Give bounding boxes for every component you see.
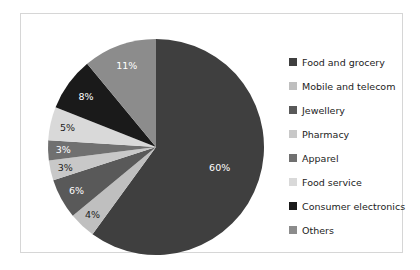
legend-item-label: Pharmacy <box>302 129 349 140</box>
legend-item-food-service[interactable]: Food service <box>289 170 419 194</box>
legend-item-mobile-and-telecom[interactable]: Mobile and telecom <box>289 74 419 98</box>
pie-slice-value-label: 8% <box>79 91 94 102</box>
legend-swatch-icon <box>289 82 297 90</box>
legend-item-jewellery[interactable]: Jewellery <box>289 98 419 122</box>
legend-item-apparel[interactable]: Apparel <box>289 146 419 170</box>
pie-slice-value-label: 60% <box>209 162 230 173</box>
pie-svg: 60%4%6%3%3%5%8%11% <box>46 37 266 257</box>
legend-swatch-icon <box>289 130 297 138</box>
pie-slice-group <box>48 39 264 255</box>
legend-item-label: Mobile and telecom <box>302 81 395 92</box>
legend-item-others[interactable]: Others <box>289 218 419 242</box>
pie-slice-value-label: 5% <box>60 122 75 133</box>
pie-slice-value-label: 6% <box>69 185 84 196</box>
pie-slice-value-label: 4% <box>85 209 100 220</box>
legend-item-label: Apparel <box>302 153 339 164</box>
pie-slice-value-label: 3% <box>56 144 71 155</box>
legend-swatch-icon <box>289 178 297 186</box>
pie-slice-value-label: 3% <box>58 162 73 173</box>
legend-item-pharmacy[interactable]: Pharmacy <box>289 122 419 146</box>
pie-chart-plot: 60%4%6%3%3%5%8%11% <box>46 37 266 257</box>
legend-item-label: Food service <box>302 177 362 188</box>
legend-item-label: Jewellery <box>302 105 345 116</box>
chart-legend: Food and grocery Mobile and telecom Jewe… <box>289 50 419 242</box>
legend-item-label: Others <box>302 225 334 236</box>
legend-swatch-icon <box>289 154 297 162</box>
legend-swatch-icon <box>289 202 297 210</box>
legend-item-food-and-grocery[interactable]: Food and grocery <box>289 50 419 74</box>
pie-chart-screenshot: 60%4%6%3%3%5%8%11% Food and grocery Mobi… <box>0 0 420 270</box>
legend-item-label: Consumer electronics <box>302 201 405 212</box>
legend-swatch-icon <box>289 58 297 66</box>
legend-swatch-icon <box>289 226 297 234</box>
chart-frame: 60%4%6%3%3%5%8%11% Food and grocery Mobi… <box>20 13 403 253</box>
legend-swatch-icon <box>289 106 297 114</box>
pie-slice-value-label: 11% <box>116 60 137 71</box>
legend-item-consumer-electronics[interactable]: Consumer electronics <box>289 194 419 218</box>
legend-item-label: Food and grocery <box>302 57 385 68</box>
